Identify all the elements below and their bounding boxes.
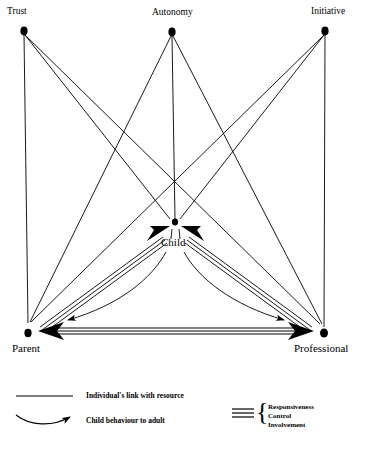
node-dot-professional[interactable] bbox=[320, 328, 328, 337]
diagram-canvas: Trust Autonomy Initiative Child Parent P… bbox=[0, 0, 372, 452]
link-autonomy-child bbox=[172, 36, 175, 219]
link-trust-parent bbox=[24, 35, 28, 323]
node-label-trust: Trust bbox=[7, 7, 27, 17]
curve-child-to-professional bbox=[184, 252, 284, 320]
node-dot-trust[interactable] bbox=[20, 27, 27, 36]
node-dot-initiative[interactable] bbox=[321, 27, 328, 36]
diagram-vector-layer bbox=[0, 0, 372, 452]
triple-line-parent-to-child bbox=[40, 226, 170, 333]
link-initiative-parent bbox=[31, 35, 324, 322]
node-label-parent: Parent bbox=[12, 343, 40, 354]
legend-brace: { bbox=[256, 399, 268, 425]
node-label-child: Child bbox=[161, 237, 185, 248]
node-dot-autonomy[interactable] bbox=[168, 28, 175, 37]
legend-label-responsiveness: Responsiveness bbox=[268, 403, 314, 412]
link-initiative-professional bbox=[324, 35, 325, 327]
legend-label-control: Control bbox=[268, 412, 291, 421]
node-dot-parent[interactable] bbox=[24, 329, 31, 337]
resource-links-group bbox=[24, 35, 325, 327]
link-autonomy-parent bbox=[30, 36, 171, 322]
link-trust-child bbox=[25, 35, 170, 219]
legend-triple-line-symbol bbox=[232, 409, 254, 417]
legend-label-involvement: Involvement bbox=[268, 421, 305, 430]
triple-line-professional-to-child bbox=[181, 226, 312, 333]
legend-label-resource-link: Individual's link with resource bbox=[86, 392, 184, 400]
node-label-initiative: Initiative bbox=[311, 7, 345, 17]
link-initiative-child bbox=[180, 35, 324, 219]
triple-line-parent-professional bbox=[38, 322, 314, 340]
node-label-professional: Professional bbox=[294, 343, 348, 354]
node-dot-child[interactable] bbox=[172, 219, 178, 226]
curve-child-to-parent bbox=[68, 252, 166, 320]
link-autonomy-professional bbox=[173, 36, 322, 324]
node-label-autonomy: Autonomy bbox=[152, 8, 193, 18]
legend-label-child-behaviour: Child behaviour to adult bbox=[86, 417, 165, 425]
legend-curved-arrow-symbol bbox=[16, 415, 70, 424]
